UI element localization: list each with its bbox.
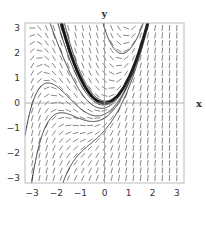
slope-segment <box>118 138 120 143</box>
slope-segment <box>52 109 57 111</box>
slope-segment <box>66 125 71 126</box>
slope-segment <box>96 146 99 150</box>
slope-segment <box>109 72 114 74</box>
slope-segment <box>148 108 149 113</box>
slope-segment <box>59 94 63 97</box>
slope-segment <box>96 86 99 90</box>
slope-segment <box>39 175 40 180</box>
slope-segment <box>117 41 121 44</box>
slope-segment <box>125 123 126 128</box>
slope-segment <box>59 131 63 134</box>
slope-segment <box>32 160 33 165</box>
slope-segment <box>32 123 33 128</box>
slope-segment <box>32 115 33 120</box>
slope-segment <box>111 146 113 151</box>
slope-segment <box>95 131 99 134</box>
slope-segment <box>30 42 34 45</box>
slope-segment <box>162 33 163 38</box>
slope-segment <box>31 108 32 113</box>
slope-segment <box>132 48 135 53</box>
slope-segment <box>45 108 48 112</box>
slope-segment <box>89 56 91 61</box>
slope-segment <box>148 123 149 128</box>
slope-segment <box>96 40 98 45</box>
slope-segment <box>126 138 127 143</box>
slope-segment <box>46 138 48 143</box>
slope-segment <box>53 153 55 158</box>
slope-segment <box>74 93 77 97</box>
slope-segment <box>31 93 33 98</box>
slope-segment <box>118 130 120 135</box>
slope-segment <box>39 123 41 128</box>
slope-segment <box>162 48 163 53</box>
slope-segment <box>32 168 33 173</box>
slope-segment <box>97 33 99 38</box>
slope-segment <box>46 26 48 31</box>
slope-segment <box>126 153 127 158</box>
slope-segment <box>140 168 141 173</box>
slope-segment <box>89 33 90 38</box>
slope-segment <box>31 86 33 91</box>
slope-segment <box>162 25 163 30</box>
slope-segment <box>66 139 70 142</box>
slope-segment <box>89 63 91 68</box>
slope-segment <box>125 71 128 75</box>
slope-segment <box>53 138 56 143</box>
slope-segment <box>111 131 113 136</box>
slope-segment <box>32 153 33 158</box>
slope-segment <box>96 168 98 173</box>
slope-segment <box>124 27 129 29</box>
slope-segment <box>88 139 92 142</box>
slope-segment <box>125 115 127 120</box>
slope-segment <box>155 85 156 90</box>
slope-segment <box>96 176 98 181</box>
slope-segment <box>46 160 47 165</box>
slope-segment <box>32 130 33 135</box>
slope-segment <box>89 161 92 166</box>
slope-segment <box>59 138 62 142</box>
slope-segment <box>133 175 134 180</box>
slope-segment <box>140 33 142 38</box>
slope-segment <box>126 175 127 180</box>
slope-segment <box>31 63 34 67</box>
slope-segment <box>60 168 62 173</box>
slope-segment <box>73 132 78 133</box>
slope-segment <box>162 40 163 45</box>
slope-segment <box>82 40 83 45</box>
slope-segment <box>88 109 93 112</box>
slope-segment <box>38 26 41 30</box>
slope-segment <box>111 26 113 31</box>
slope-segment <box>155 138 156 143</box>
slope-segment <box>39 130 41 135</box>
slope-segment <box>140 138 141 143</box>
slope-segment <box>52 123 55 127</box>
slope-segment <box>96 78 99 82</box>
slope-segment <box>155 25 156 30</box>
slope-segment <box>133 78 135 83</box>
slope-segment <box>111 153 113 158</box>
slope-segment <box>31 56 34 60</box>
slope-segment <box>75 40 76 45</box>
x-tick-label: 0 <box>102 188 108 198</box>
slope-segment <box>147 93 148 98</box>
slope-segment <box>67 153 70 157</box>
slope-segment <box>140 160 141 165</box>
slope-segment <box>74 176 76 181</box>
slope-segment <box>148 145 149 150</box>
slope-segment <box>148 168 149 173</box>
slope-segment <box>169 25 170 30</box>
x-tick-label: −2 <box>50 188 63 198</box>
slope-segment <box>30 35 35 37</box>
slope-segment <box>53 48 55 53</box>
slope-segment <box>82 48 84 53</box>
slope-segment <box>52 79 56 82</box>
slope-segment <box>89 168 91 173</box>
slope-segment <box>37 71 41 74</box>
slope-segment <box>140 175 141 180</box>
slope-segment <box>140 93 141 98</box>
slope-segment <box>74 168 77 173</box>
slope-segment <box>46 168 47 173</box>
slope-segment <box>155 93 156 98</box>
slope-segment <box>60 56 62 61</box>
slope-segment <box>44 64 49 67</box>
